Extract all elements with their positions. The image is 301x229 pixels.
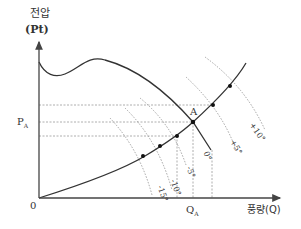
y-axis-unit: (Pt) <box>25 24 49 35</box>
horizontal-reference-lines <box>39 105 213 136</box>
operating-point-a <box>191 120 195 124</box>
pressure-a-label: PA <box>17 117 28 129</box>
origin-label: 0 <box>30 201 36 211</box>
fan-characteristic-diagram: 전압 (Pt) 0 PA QA 풍량(Q) A 0° -5° -10° -15°… <box>0 0 301 229</box>
system-resistance-curve <box>39 63 246 198</box>
qa-sub: A <box>194 210 198 217</box>
curve-plus10 <box>205 57 265 130</box>
pa-sub: A <box>24 122 28 129</box>
x-axis-label: 풍량(Q) <box>247 205 281 215</box>
point-a-label: A <box>190 107 197 117</box>
curve-minus10 <box>125 108 172 190</box>
pa-main: P <box>17 116 24 127</box>
y-axis-label: 전압 <box>30 8 50 19</box>
qa-main: Q <box>186 204 194 215</box>
curve-minus15 <box>110 118 152 195</box>
flow-a-label: QA <box>186 205 199 217</box>
